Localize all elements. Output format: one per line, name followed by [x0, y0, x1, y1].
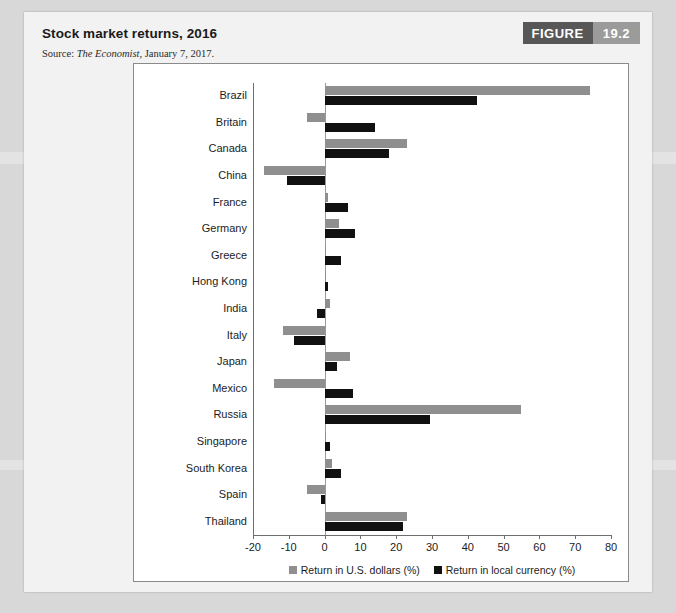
bar-row: Hong Kong: [253, 269, 611, 296]
x-tick-label: 0: [322, 541, 328, 553]
category-label-china: China: [218, 169, 247, 181]
bar-hong-kong-usd: [325, 272, 327, 281]
bar-india-usd: [325, 299, 330, 308]
bar-greece-local: [325, 256, 341, 265]
bar-mexico-local: [325, 389, 354, 398]
bar-row: Canada: [253, 136, 611, 163]
x-tick: [539, 535, 540, 539]
figure-card: FIGURE 19.2 Stock market returns, 2016 S…: [24, 12, 652, 592]
x-tick-label: 70: [569, 541, 581, 553]
category-label-russia: Russia: [213, 408, 247, 420]
x-tick-label: 60: [533, 541, 545, 553]
bar-russia-local: [325, 415, 431, 424]
bar-mexico-usd: [274, 379, 324, 388]
bar-canada-usd: [325, 139, 407, 148]
legend-label: Return in U.S. dollars (%): [301, 564, 420, 576]
source-suffix: , January 7, 2017.: [139, 48, 214, 59]
category-label-britain: Britain: [216, 116, 247, 128]
bar-britain-local: [325, 123, 375, 132]
legend-item-usd: Return in U.S. dollars (%): [289, 564, 420, 576]
x-tick: [360, 535, 361, 539]
bar-spain-usd: [307, 485, 325, 494]
figure-title: Stock market returns, 2016: [42, 26, 217, 41]
category-label-brazil: Brazil: [219, 89, 247, 101]
legend-label: Return in local currency (%): [446, 564, 576, 576]
legend-swatch-icon: [289, 566, 297, 574]
bar-spain-local: [321, 495, 325, 504]
bar-greece-usd: [325, 246, 327, 255]
bar-brazil-usd: [325, 86, 590, 95]
source-prefix: Source:: [42, 48, 77, 59]
bar-row: Mexico: [253, 375, 611, 402]
bar-russia-usd: [325, 405, 522, 414]
bar-britain-usd: [307, 113, 325, 122]
x-tick-label: 30: [426, 541, 438, 553]
figure-badge-label: FIGURE: [523, 22, 593, 44]
bar-hong-kong-local: [325, 282, 329, 291]
x-tick: [396, 535, 397, 539]
bar-row: Greece: [253, 243, 611, 270]
bar-row: China: [253, 163, 611, 190]
bar-thailand-local: [325, 522, 404, 531]
bar-germany-local: [325, 229, 355, 238]
x-tick: [325, 535, 326, 539]
x-tick-label: 10: [354, 541, 366, 553]
category-label-canada: Canada: [208, 142, 247, 154]
bar-row: Brazil: [253, 83, 611, 110]
category-label-india: India: [223, 302, 247, 314]
x-tick: [432, 535, 433, 539]
bar-india-local: [317, 309, 324, 318]
x-tick: [504, 535, 505, 539]
x-tick-label: 40: [462, 541, 474, 553]
chart-plot-area: BrazilBritainCanadaChinaFranceGermanyGre…: [253, 83, 611, 535]
bar-row: Thailand: [253, 508, 611, 535]
category-label-japan: Japan: [217, 355, 247, 367]
bar-thailand-usd: [325, 512, 407, 521]
bar-brazil-local: [325, 96, 477, 105]
legend-swatch-icon: [434, 566, 442, 574]
x-tick: [611, 535, 612, 539]
category-label-spain: Spain: [219, 488, 247, 500]
bar-row: Singapore: [253, 429, 611, 456]
category-label-greece: Greece: [211, 249, 247, 261]
x-tick-label: 80: [605, 541, 617, 553]
bar-italy-usd: [283, 326, 324, 335]
figure-source: Source: The Economist, January 7, 2017.: [42, 48, 214, 59]
bar-south-korea-local: [325, 469, 341, 478]
bar-singapore-local: [325, 442, 330, 451]
bar-row: Russia: [253, 402, 611, 429]
bar-japan-local: [325, 362, 338, 371]
x-tick: [289, 535, 290, 539]
bar-row: Spain: [253, 482, 611, 509]
category-label-thailand: Thailand: [205, 515, 247, 527]
category-label-south-korea: South Korea: [186, 462, 247, 474]
x-tick: [468, 535, 469, 539]
bar-france-usd: [325, 193, 329, 202]
figure-badge-number: 19.2: [593, 22, 640, 44]
category-label-singapore: Singapore: [197, 435, 247, 447]
source-publication: The Economist: [77, 48, 140, 59]
legend-item-local: Return in local currency (%): [434, 564, 576, 576]
category-label-germany: Germany: [202, 222, 247, 234]
bar-italy-local: [294, 336, 324, 345]
chart-plot-frame: BrazilBritainCanadaChinaFranceGermanyGre…: [133, 63, 629, 582]
x-tick-label: -10: [281, 541, 297, 553]
bar-row: Britain: [253, 110, 611, 137]
category-label-italy: Italy: [227, 329, 247, 341]
x-tick: [575, 535, 576, 539]
bar-row: India: [253, 296, 611, 323]
bar-row: South Korea: [253, 455, 611, 482]
bar-china-local: [287, 176, 325, 185]
bar-south-korea-usd: [325, 459, 332, 468]
category-label-mexico: Mexico: [212, 382, 247, 394]
x-tick-label: -20: [245, 541, 261, 553]
bar-germany-usd: [325, 219, 339, 228]
bar-row: Germany: [253, 216, 611, 243]
chart-legend: Return in U.S. dollars (%)Return in loca…: [253, 564, 611, 576]
x-tick: [253, 535, 254, 539]
bar-row: Japan: [253, 349, 611, 376]
bar-canada-local: [325, 149, 389, 158]
figure-badge: FIGURE 19.2: [523, 22, 640, 44]
bar-japan-usd: [325, 352, 350, 361]
bar-singapore-usd: [325, 432, 326, 441]
